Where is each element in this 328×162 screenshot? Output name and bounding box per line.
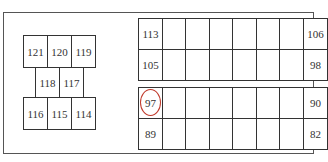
- empty-fuse-slot: [185, 118, 210, 150]
- empty-fuse-slot: [185, 87, 210, 119]
- empty-fuse-slot: [209, 118, 234, 150]
- empty-fuse-slot: [279, 87, 304, 119]
- fuse-cell: 113: [138, 18, 163, 50]
- fuse-cell: 82: [303, 118, 328, 150]
- fuse-cell: 117: [59, 67, 84, 98]
- empty-fuse-slot: [279, 49, 304, 81]
- empty-fuse-slot: [185, 18, 210, 50]
- fuse-cell: 120: [47, 35, 72, 68]
- fuse-cell: 119: [71, 35, 96, 68]
- fuse-cell: 90: [303, 87, 328, 119]
- empty-fuse-slot: [162, 49, 187, 81]
- fuse-cell: 116: [23, 97, 48, 130]
- fuse-cell: 121: [23, 35, 48, 68]
- empty-fuse-slot: [209, 87, 234, 119]
- empty-fuse-slot: [162, 18, 187, 50]
- empty-fuse-slot: [279, 18, 304, 50]
- empty-fuse-slot: [256, 118, 281, 150]
- empty-fuse-slot: [185, 49, 210, 81]
- empty-fuse-slot: [232, 118, 257, 150]
- highlight-circle: [140, 89, 161, 116]
- empty-fuse-slot: [232, 18, 257, 50]
- fuse-cell: 118: [35, 67, 60, 98]
- empty-fuse-slot: [209, 49, 234, 81]
- fuse-cell: 115: [47, 97, 72, 130]
- empty-fuse-slot: [256, 49, 281, 81]
- fuse-cell: 106: [303, 18, 328, 50]
- empty-fuse-slot: [232, 49, 257, 81]
- fuse-cell: 89: [138, 118, 163, 150]
- empty-fuse-slot: [256, 87, 281, 119]
- fuse-cell: 114: [71, 97, 96, 130]
- empty-fuse-slot: [162, 118, 187, 150]
- empty-fuse-slot: [162, 87, 187, 119]
- empty-fuse-slot: [209, 18, 234, 50]
- empty-fuse-slot: [232, 87, 257, 119]
- fuse-cell: 105: [138, 49, 163, 81]
- empty-fuse-slot: [279, 118, 304, 150]
- empty-fuse-slot: [256, 18, 281, 50]
- fuse-cell: 98: [303, 49, 328, 81]
